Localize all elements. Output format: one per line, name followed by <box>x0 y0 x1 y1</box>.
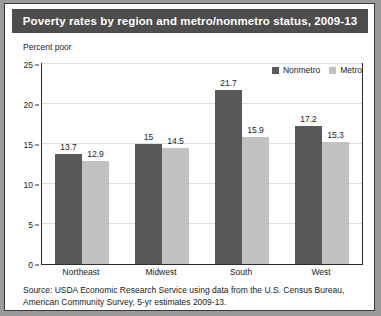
y-axis-tick-mark <box>35 145 39 146</box>
y-axis-tick-mark <box>35 65 39 66</box>
chart-legend: NonmetroMetro <box>272 65 362 75</box>
x-axis-category-label: South <box>230 267 252 277</box>
source-note-line-1: Source: USDA Economic Research Service u… <box>23 285 359 297</box>
bar-value-label: 13.7 <box>60 142 77 152</box>
legend-swatch-icon <box>329 67 336 74</box>
bar-value-label: 14.5 <box>167 136 184 146</box>
x-axis-category-label: Midwest <box>145 267 176 277</box>
bar-value-label: 17.2 <box>300 114 317 124</box>
plot-area: 13.712.91514.521.715.917.215.3 <box>41 63 363 265</box>
bar-value-label: 15.3 <box>327 130 344 140</box>
page-title: Poverty rates by region and metro/nonmet… <box>23 15 357 27</box>
bar-value-label: 21.7 <box>220 78 237 88</box>
y-axis-tick-mark <box>35 105 39 106</box>
bar-value-label: 15.9 <box>247 125 264 135</box>
y-axis-tick-label: 10 <box>24 180 33 190</box>
y-axis-tick-label: 15 <box>24 140 33 150</box>
source-note: Source: USDA Economic Research Service u… <box>23 285 359 308</box>
y-axis-tick-label: 0 <box>28 260 33 270</box>
x-axis: NortheastMidwestSouthWest <box>41 267 363 283</box>
legend-swatch-icon <box>272 67 279 74</box>
x-axis-category-label: Northeast <box>63 267 100 277</box>
y-axis-tick-mark <box>35 265 39 266</box>
y-axis-tick-label: 25 <box>24 60 33 70</box>
chart-figure: Poverty rates by region and metro/nonmet… <box>4 3 375 311</box>
y-axis-tick-label: 20 <box>24 100 33 110</box>
y-axis: 0510152025 <box>5 63 39 265</box>
y-axis-tick-mark <box>35 185 39 186</box>
y-axis-caption: Percent poor <box>23 42 72 52</box>
x-axis-category-label: West <box>311 267 330 277</box>
bar-value-labels: 13.712.91514.521.715.917.215.3 <box>42 64 362 264</box>
bar-value-label: 12.9 <box>87 149 104 159</box>
legend-item-metro[interactable]: Metro <box>329 65 362 75</box>
bar-value-label: 15 <box>144 132 153 142</box>
legend-item-nonmetro[interactable]: Nonmetro <box>272 65 320 75</box>
chart-title-bar: Poverty rates by region and metro/nonmet… <box>12 9 368 33</box>
legend-label: Metro <box>340 65 362 75</box>
y-axis-tick-label: 5 <box>28 220 33 230</box>
source-note-line-2: American Community Survey, 5-yr estimate… <box>23 297 359 309</box>
legend-label: Nonmetro <box>283 65 320 75</box>
y-axis-tick-mark <box>35 225 39 226</box>
